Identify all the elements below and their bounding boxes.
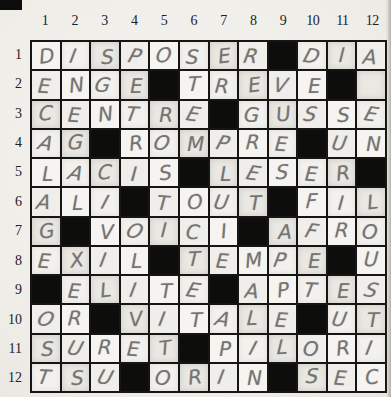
grid-cell[interactable]: E — [298, 247, 326, 274]
grid-cell[interactable]: U — [328, 305, 356, 332]
grid-cell[interactable]: E — [210, 247, 238, 274]
grid-cell[interactable]: P — [210, 335, 238, 362]
grid-cell[interactable]: R — [62, 305, 90, 332]
grid-cell[interactable]: R — [239, 42, 267, 69]
grid-cell[interactable]: T — [357, 305, 385, 332]
grid-cell[interactable]: S — [328, 101, 356, 128]
grid-cell[interactable]: E — [239, 71, 267, 98]
grid-cell[interactable]: T — [298, 276, 326, 303]
grid-cell[interactable]: L — [357, 188, 385, 215]
grid-cell[interactable]: E — [62, 276, 90, 303]
grid-cell[interactable]: L — [91, 276, 119, 303]
grid-cell[interactable]: T — [150, 188, 178, 215]
grid-cell[interactable]: I — [121, 159, 149, 186]
grid-cell[interactable]: R — [328, 218, 356, 245]
grid-cell[interactable]: I — [328, 188, 356, 215]
grid-cell[interactable]: O — [121, 218, 149, 245]
grid-cell[interactable]: E — [210, 42, 238, 69]
grid-cell[interactable]: O — [357, 218, 385, 245]
grid-cell[interactable]: A — [210, 305, 238, 332]
grid-cell[interactable]: S — [180, 42, 208, 69]
grid-cell[interactable]: S — [269, 159, 297, 186]
grid-cell[interactable]: E — [121, 71, 149, 98]
grid-cell[interactable]: R — [328, 335, 356, 362]
grid-cell[interactable]: L — [239, 305, 267, 332]
grid-cell[interactable]: P — [269, 247, 297, 274]
grid-cell[interactable]: T — [150, 276, 178, 303]
grid-cell[interactable]: I — [357, 335, 385, 362]
grid-cell[interactable]: I — [91, 247, 119, 274]
grid-cell[interactable]: U — [269, 101, 297, 128]
grid-cell[interactable]: E — [298, 159, 326, 186]
grid-cell[interactable]: L — [121, 247, 149, 274]
grid-cell[interactable]: T — [150, 335, 178, 362]
grid-cell[interactable]: R — [91, 335, 119, 362]
grid-cell[interactable]: T — [32, 364, 60, 391]
grid-cell[interactable]: U — [91, 364, 119, 391]
grid-cell[interactable]: M — [180, 130, 208, 157]
grid-cell[interactable]: C — [91, 159, 119, 186]
grid-cell[interactable]: R — [121, 130, 149, 157]
grid-cell[interactable]: V — [121, 305, 149, 332]
grid-cell[interactable] — [357, 71, 385, 98]
grid-cell[interactable]: V — [91, 218, 119, 245]
grid-cell[interactable]: O — [150, 364, 178, 391]
grid-cell[interactable]: E — [32, 71, 60, 98]
grid-cell[interactable]: T — [121, 101, 149, 128]
grid-cell[interactable]: P — [269, 276, 297, 303]
grid-cell[interactable]: G — [62, 130, 90, 157]
grid-cell[interactable]: I — [210, 364, 238, 391]
grid-cell[interactable]: U — [62, 335, 90, 362]
grid-cell[interactable]: T — [180, 247, 208, 274]
grid-cell[interactable]: E — [180, 101, 208, 128]
grid-cell[interactable]: U — [328, 130, 356, 157]
grid-cell[interactable]: I — [62, 42, 90, 69]
grid-cell[interactable]: V — [269, 71, 297, 98]
grid-cell[interactable]: S — [91, 42, 119, 69]
grid-cell[interactable]: R — [210, 71, 238, 98]
grid-cell[interactable]: A — [32, 188, 60, 215]
grid-cell[interactable]: E — [269, 305, 297, 332]
grid-cell[interactable]: R — [239, 130, 267, 157]
grid-cell[interactable]: I — [121, 276, 149, 303]
grid-cell[interactable]: I — [210, 218, 238, 245]
grid-cell[interactable]: G — [239, 101, 267, 128]
grid-cell[interactable]: G — [32, 218, 60, 245]
grid-cell[interactable]: N — [357, 130, 385, 157]
grid-cell[interactable]: E — [62, 101, 90, 128]
grid-cell[interactable]: L — [62, 188, 90, 215]
grid-cell[interactable]: A — [32, 130, 60, 157]
grid-cell[interactable]: C — [357, 364, 385, 391]
grid-cell[interactable]: E — [180, 276, 208, 303]
grid-cell[interactable]: O — [150, 130, 178, 157]
grid-cell[interactable]: E — [328, 364, 356, 391]
grid-cell[interactable]: D — [298, 42, 326, 69]
grid-cell[interactable]: E — [269, 130, 297, 157]
grid-cell[interactable]: E — [121, 335, 149, 362]
grid-cell[interactable]: L — [32, 159, 60, 186]
grid-cell[interactable]: O — [180, 188, 208, 215]
grid-cell[interactable]: I — [150, 305, 178, 332]
grid-cell[interactable]: U — [357, 247, 385, 274]
grid-cell[interactable]: N — [239, 364, 267, 391]
grid-cell[interactable]: M — [239, 247, 267, 274]
grid-cell[interactable]: E — [328, 276, 356, 303]
grid-cell[interactable]: R — [328, 159, 356, 186]
grid-cell[interactable]: R — [150, 101, 178, 128]
grid-cell[interactable]: C — [32, 101, 60, 128]
grid-cell[interactable]: L — [210, 159, 238, 186]
grid-cell[interactable]: S — [150, 159, 178, 186]
grid-cell[interactable]: E — [298, 71, 326, 98]
grid-cell[interactable]: I — [91, 188, 119, 215]
grid-cell[interactable]: T — [180, 71, 208, 98]
grid-cell[interactable]: O — [32, 305, 60, 332]
grid-cell[interactable]: F — [298, 218, 326, 245]
grid-cell[interactable]: E — [32, 247, 60, 274]
grid-cell[interactable]: X — [62, 247, 90, 274]
grid-cell[interactable]: I — [328, 42, 356, 69]
grid-cell[interactable]: N — [91, 101, 119, 128]
grid-cell[interactable]: A — [62, 159, 90, 186]
grid-cell[interactable]: R — [180, 364, 208, 391]
grid-cell[interactable]: P — [210, 130, 238, 157]
grid-cell[interactable]: P — [121, 42, 149, 69]
